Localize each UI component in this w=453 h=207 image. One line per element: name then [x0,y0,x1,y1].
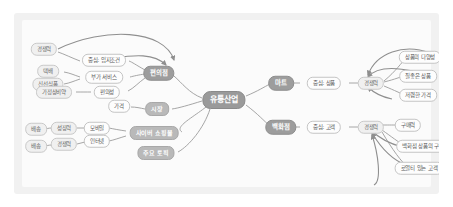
node-center-customer[interactable]: 중심: 고객 [307,121,341,134]
diagram-frame: 유통산업 편의점 중심: 입지조건 경쟁력 부가 서비스 택배 신선식품 편의성… [14,13,439,194]
node-branch-main-topic[interactable]: 주요 토픽 [137,146,174,160]
node-low-price[interactable]: 저렴한 가격 [399,89,437,102]
node-product-variety[interactable]: 상품의 다양성 [399,51,439,64]
node-household-medicine[interactable]: 가정상비약 [36,86,72,99]
node-branch-pyeonuijeom[interactable]: 편의점 [143,66,174,81]
node-delivery-mobile[interactable]: 배송 [25,123,47,136]
node-convenience[interactable]: 편의성 [94,86,120,99]
node-parcel-delivery-cvs[interactable]: 택배 [37,65,59,78]
node-competitiveness-internet[interactable]: 경쟁력 [51,138,77,151]
node-competitiveness-cvs[interactable]: 경쟁력 [31,43,57,56]
node-growth-power[interactable]: 성장력 [51,122,77,135]
node-loyal-customer[interactable]: 로열티 있는 고객 [395,162,439,175]
node-center-location-condition[interactable]: 중심: 입지조건 [82,54,126,67]
node-competitiveness-department[interactable]: 경쟁력 [358,121,384,134]
node-mobile[interactable]: 모바일 [84,122,110,135]
node-internet[interactable]: 인터넷 [84,135,110,148]
mindmap-screenshot: 유통산업 편의점 중심: 입지조건 경쟁력 부가 서비스 택배 신선식품 편의성… [0,0,453,207]
node-center-product[interactable]: 중심: 상품 [307,77,341,90]
node-department-product-purchase[interactable]: 백화점 상품의 구입 [396,140,439,153]
node-branch-department-store[interactable]: 백화점 [265,120,296,135]
node-purchasing-power[interactable]: 구매력 [395,119,421,132]
node-branch-sijang[interactable]: 시장 [145,102,169,116]
node-price-market[interactable]: 가격 [108,100,130,113]
node-branch-cyber-shopping-mall[interactable]: 사이버 쇼핑몰 [130,126,179,140]
node-quality-product[interactable]: 질좋은 상품 [399,70,437,83]
node-root-yutongsaneop[interactable]: 유통산업 [202,91,245,109]
node-delivery-internet[interactable]: 배송 [25,140,47,153]
node-value-added-service[interactable]: 부가 서비스 [85,71,123,84]
node-branch-mart[interactable]: 마트 [268,76,294,91]
node-competitiveness-mart[interactable]: 경쟁력 [358,77,384,90]
